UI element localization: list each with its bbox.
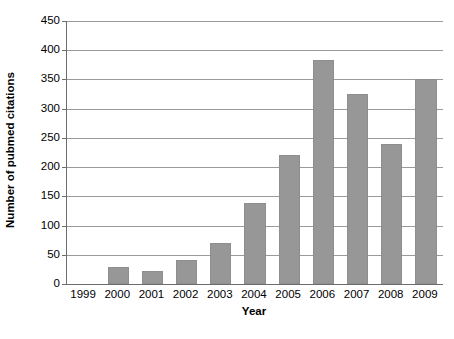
bar	[279, 155, 300, 284]
y-tick-label: 400	[4, 44, 60, 56]
bar	[142, 271, 163, 284]
bar	[415, 79, 436, 284]
bar	[347, 94, 368, 284]
figure-caption	[2, 331, 452, 339]
y-tick-mark	[62, 284, 67, 285]
y-tick-label: 300	[4, 103, 60, 115]
y-tick-label: 0	[4, 278, 60, 290]
x-tick-label: 2009	[408, 288, 442, 301]
bar	[176, 260, 197, 284]
x-axis-title: Year	[66, 305, 442, 317]
y-tick-label: 450	[4, 15, 60, 27]
y-tick-label: 150	[4, 190, 60, 202]
x-tick-label: 2000	[100, 288, 134, 301]
y-tick-label: 200	[4, 161, 60, 173]
bar	[381, 144, 402, 284]
x-tick-label: 1999	[66, 288, 100, 301]
x-tick-label: 2001	[134, 288, 168, 301]
y-axis-tick-labels: 050100150200250300350400450	[0, 0, 60, 339]
plot-area	[66, 21, 443, 285]
y-tick-label: 350	[4, 73, 60, 85]
x-tick-label: 2002	[169, 288, 203, 301]
bar	[313, 60, 334, 284]
bar	[210, 243, 231, 284]
y-tick-label: 50	[4, 249, 60, 261]
bar	[108, 267, 129, 284]
bar	[244, 203, 265, 284]
figure-bar-chart: Number of pubmed citations 0501001502002…	[0, 0, 454, 339]
y-tick-label: 100	[4, 220, 60, 232]
x-tick-label: 2006	[305, 288, 339, 301]
y-tick-label: 250	[4, 132, 60, 144]
x-axis-tick-labels: 1999200020012002200320042005200620072008…	[66, 288, 442, 304]
x-tick-label: 2003	[203, 288, 237, 301]
bar-series	[67, 21, 443, 284]
x-tick-label: 2008	[374, 288, 408, 301]
x-tick-label: 2007	[339, 288, 373, 301]
x-tick-label: 2004	[237, 288, 271, 301]
x-tick-label: 2005	[271, 288, 305, 301]
